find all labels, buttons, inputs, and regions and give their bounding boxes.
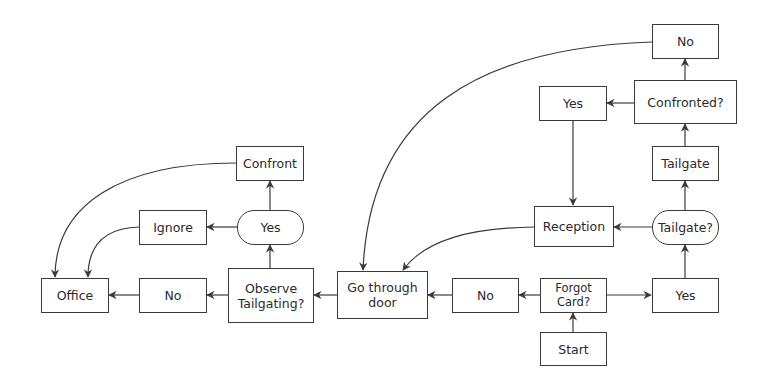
node-yes-observe: Yes: [237, 210, 304, 245]
node-ignore: Ignore: [139, 210, 207, 245]
node-confronted-question: Confronted?: [634, 80, 737, 124]
node-reception: Reception: [534, 206, 614, 247]
node-forgot-card: Forgot Card?: [540, 278, 607, 313]
node-no-forgot: No: [452, 278, 519, 313]
node-yes-confronted: Yes: [539, 86, 607, 121]
node-tailgate-question: Tailgate?: [652, 210, 719, 245]
flowchart: Start Forgot Card? No Yes Tailgate? Tail…: [0, 0, 768, 388]
edge-ignore-office: [88, 227, 139, 277]
node-start: Start: [540, 332, 607, 366]
node-office: Office: [41, 278, 109, 313]
node-yes-forgot: Yes: [652, 278, 719, 313]
node-observe-tailgating: Observe Tailgating?: [228, 268, 314, 323]
node-confront: Confront: [236, 146, 304, 181]
node-go-through-door: Go through door: [337, 271, 428, 319]
edge-reception-door: [403, 227, 534, 270]
node-tailgate: Tailgate: [652, 146, 719, 181]
node-no-confronted: No: [652, 24, 719, 59]
node-no-observe: No: [139, 278, 207, 313]
